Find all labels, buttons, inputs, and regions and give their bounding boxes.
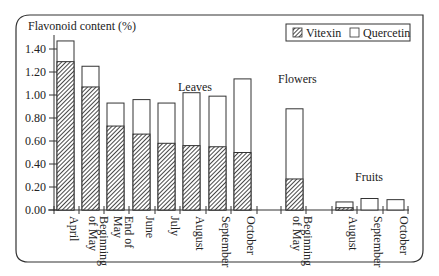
- group-label-flowers: Flowers: [278, 72, 317, 86]
- x-tick-label: October: [244, 216, 258, 255]
- bars: [57, 41, 404, 210]
- vitexin-segment: [286, 179, 303, 210]
- y-tick-label: 0.20: [25, 180, 46, 194]
- x-axis: [48, 206, 409, 214]
- group-label-leaves: Leaves: [178, 80, 212, 94]
- x-tick-label: May: [111, 216, 125, 238]
- bar-6: [209, 96, 226, 210]
- bar-1: [82, 66, 99, 210]
- x-tick-label: July: [168, 216, 182, 236]
- legend-quercetin-label: Quercetin: [363, 26, 410, 40]
- bar-9: [336, 202, 353, 210]
- bar-11: [387, 200, 404, 210]
- x-axis-labels: AprilBeginningof MayEnd ofMayJuneJulyAug…: [67, 216, 411, 267]
- bar-2: [107, 103, 124, 210]
- vitexin-segment: [133, 134, 150, 210]
- y-tick-label: 1.40: [25, 42, 46, 56]
- legend-vitexin-label: Vitexin: [306, 26, 341, 40]
- quercetin-segment: [361, 199, 378, 211]
- y-tick-label: 1.00: [25, 88, 46, 102]
- legend-vitexin-swatch: [293, 28, 302, 37]
- y-tick-label: 0.60: [25, 134, 46, 148]
- flavonoid-bar-chart: Flavonoid content (%) 0.000.200.400.600.…: [0, 0, 439, 276]
- y-tick-label: 1.20: [25, 65, 46, 79]
- y-tick-label: 0.80: [25, 111, 46, 125]
- bar-8: [286, 109, 303, 210]
- vitexin-segment: [234, 153, 251, 211]
- y-axis-label: Flavonoid content (%): [28, 19, 136, 33]
- quercetin-segment: [387, 200, 404, 210]
- vitexin-segment: [183, 146, 200, 210]
- y-axis: 0.000.200.400.600.801.001.201.40: [25, 35, 59, 217]
- vitexin-segment: [82, 87, 99, 210]
- x-tick-label: June: [143, 216, 157, 238]
- bar-0: [57, 41, 74, 210]
- bar-7: [234, 79, 251, 210]
- x-tick-label: of May: [290, 216, 304, 251]
- y-tick-label: 0.00: [25, 203, 46, 217]
- legend-quercetin-swatch: [350, 28, 359, 37]
- bar-10: [361, 199, 378, 211]
- x-tick-label: August: [346, 216, 360, 251]
- x-tick-label: October: [397, 216, 411, 255]
- x-tick-label: of May: [86, 216, 100, 251]
- bar-5: [183, 93, 200, 210]
- x-tick-label: August: [193, 216, 207, 251]
- vitexin-segment: [336, 208, 353, 210]
- group-label-fruits: Fruits: [355, 170, 383, 184]
- vitexin-segment: [57, 62, 74, 210]
- bar-3: [133, 100, 150, 210]
- bar-4: [158, 103, 175, 210]
- x-tick-label: September: [371, 216, 385, 267]
- vitexin-segment: [107, 126, 124, 210]
- vitexin-segment: [158, 143, 175, 210]
- x-tick-label: September: [219, 216, 233, 267]
- y-tick-label: 0.40: [25, 157, 46, 171]
- legend: Vitexin Quercetin: [286, 24, 410, 41]
- x-tick-label: April: [67, 216, 81, 242]
- vitexin-segment: [209, 147, 226, 210]
